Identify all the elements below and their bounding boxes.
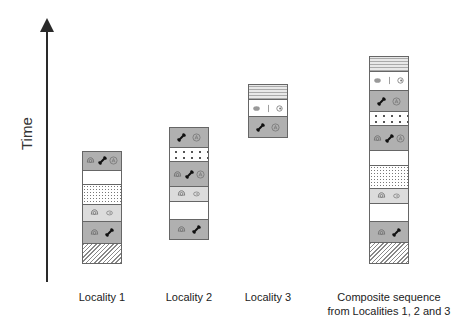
column-locality-3 <box>248 84 288 138</box>
ammonite-icon <box>90 228 99 237</box>
bone-icon <box>192 225 201 234</box>
label-locality-2: Locality 2 <box>159 290 219 304</box>
label-locality-1: Locality 1 <box>72 290 132 304</box>
layer-white <box>370 151 408 166</box>
layer-sparse-dotted <box>370 112 408 126</box>
ammonite-a-icon <box>392 97 401 106</box>
ammonite-a-icon <box>196 170 205 179</box>
layer-gray-fossils <box>170 128 208 148</box>
shell-icon <box>392 191 401 200</box>
ammonite-a-icon <box>192 133 201 142</box>
blob-icon <box>373 76 382 85</box>
bone-icon <box>105 228 114 237</box>
layer-light-fossils <box>370 189 408 204</box>
layer-hatched <box>370 243 408 263</box>
ammonite-a-icon <box>396 134 405 143</box>
layer-lined <box>370 57 408 72</box>
layer-gray-fossils <box>370 126 408 151</box>
layer-white <box>370 204 408 223</box>
ammonite-icon <box>90 208 99 217</box>
clam-icon <box>275 104 284 113</box>
layer-gray-fossils <box>170 220 208 239</box>
label-composite: Composite sequence from Localities 1, 2 … <box>314 290 464 318</box>
layer-light-fossils <box>170 187 208 202</box>
layer-gray-fossils <box>83 222 121 244</box>
ammonite-icon <box>86 156 95 165</box>
ammonite-icon <box>373 134 382 143</box>
layer-lined <box>249 85 287 100</box>
column-locality-1 <box>82 151 122 264</box>
ammonite-a-icon <box>109 156 118 165</box>
layer-white-fossils <box>249 100 287 117</box>
layer-white <box>170 202 208 221</box>
label-composite-line2: from Localities 1, 2 and 3 <box>314 304 464 318</box>
ammonite-icon <box>173 170 182 179</box>
column-locality-2 <box>169 127 209 240</box>
layer-gray-fossils <box>170 162 208 187</box>
bone-icon <box>256 123 265 132</box>
layer-dense-dotted <box>370 166 408 189</box>
time-axis-line <box>46 20 48 282</box>
layer-hatched <box>83 244 121 263</box>
bone-icon <box>385 134 394 143</box>
layer-sparse-dotted <box>170 148 208 163</box>
label-locality-3: Locality 3 <box>238 290 298 304</box>
layer-white <box>83 171 121 185</box>
ammonite-a-icon <box>271 123 280 132</box>
ammonite-icon <box>177 225 186 234</box>
bone-icon <box>98 156 107 165</box>
layer-dense-dotted <box>83 185 121 205</box>
bone-icon <box>185 170 194 179</box>
label-composite-line1: Composite sequence <box>314 290 464 304</box>
layer-light-fossils <box>83 205 121 223</box>
spine-icon <box>385 76 394 85</box>
column-composite <box>369 56 409 264</box>
layer-gray-fossils <box>370 91 408 113</box>
layer-white-fossils <box>370 72 408 91</box>
blob-icon <box>252 104 261 113</box>
spine-icon <box>264 104 273 113</box>
bone-icon <box>377 97 386 106</box>
ammonite-icon <box>377 191 386 200</box>
layer-gray-fossils <box>249 117 287 137</box>
time-axis-label: Time <box>18 117 35 150</box>
layer-gray-fossils <box>370 222 408 243</box>
shell-icon <box>192 189 201 198</box>
clam-icon <box>396 76 405 85</box>
ammonite-icon <box>177 189 186 198</box>
bone-icon <box>177 133 186 142</box>
ammonite-icon <box>377 228 386 237</box>
layer-gray-fossils <box>83 152 121 171</box>
bone-icon <box>392 228 401 237</box>
shell-icon <box>105 208 114 217</box>
